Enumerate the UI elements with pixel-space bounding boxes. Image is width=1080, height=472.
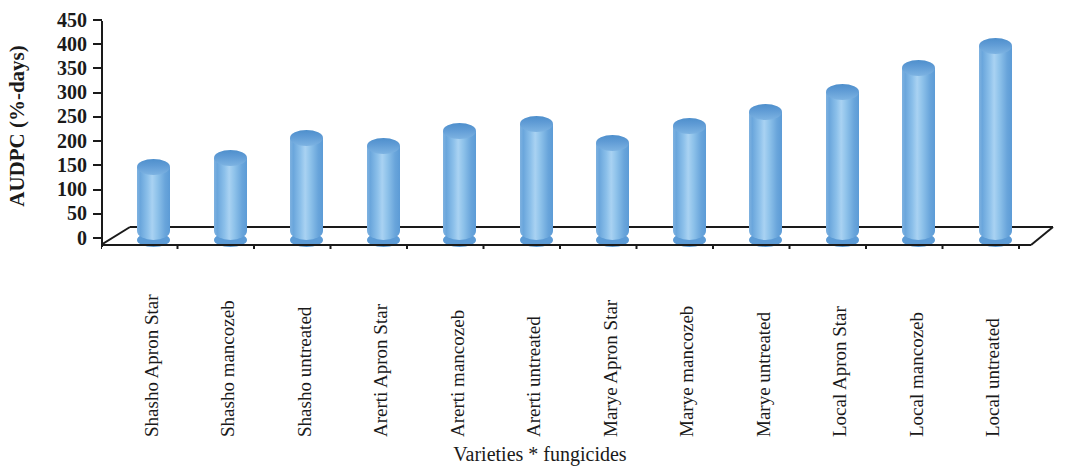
x-axis-category-label: Marye mancozeb [679,252,699,437]
x-axis-category-label: Arerti Apron Star [373,252,393,437]
x-axis-category-text: Shasho mancozeb [218,300,237,437]
x-axis-category-label: Shasho Apron Star [144,252,164,437]
bar-body [673,126,706,240]
bar [137,159,170,240]
bar-body [979,46,1012,240]
x-axis-category-label: Local mancozeb [909,252,929,437]
bar-top-ellipse [902,60,935,76]
bar [520,116,553,240]
x-axis-category-text: Local untreated [983,318,1002,437]
bar [290,130,323,240]
bar-body [214,158,247,240]
x-axis-category-text: Local mancozeb [907,312,926,437]
bar [749,104,782,240]
bar [673,118,706,240]
bar [596,135,629,240]
x-axis-category-label: Marye untreated [756,252,776,437]
x-axis-title: Varieties * fungicides [0,443,1080,466]
x-axis-category-label: Shasho mancozeb [220,252,240,437]
x-axis-category-label: Local untreated [985,252,1005,437]
x-axis-category-label: Arerti untreated [526,252,546,437]
x-axis-category-text: Marye mancozeb [677,306,696,437]
audpc-bar-chart: AUDPC (%-days) 4504003503002502001501005… [0,0,1080,472]
x-axis-category-text: Arerti mancozeb [448,310,467,437]
x-axis-category-label: Arerti mancozeb [450,252,470,437]
bar-top-ellipse [596,135,629,151]
x-axis-category-text: Local Apron Star [830,306,849,437]
bar-body [596,143,629,240]
bar-top-ellipse [520,116,553,132]
bar [979,38,1012,240]
bar-body [902,68,935,240]
x-axis-category-text: Shasho untreated [295,307,314,437]
bar-body [826,92,859,240]
x-axis-category-label: Shasho untreated [297,252,317,437]
bar [214,150,247,240]
bar-body [749,112,782,240]
bar-top-ellipse [214,150,247,166]
x-axis-category-text: Shasho Apron Star [142,295,161,438]
bar-body [290,138,323,240]
bar-top-ellipse [979,38,1012,54]
bar-body [520,124,553,240]
bar-top-ellipse [826,84,859,100]
x-axis-category-labels: Shasho Apron StarShasho mancozebShasho u… [0,252,1080,437]
bar [367,138,400,240]
x-axis-category-label: Local Apron Star [832,252,852,437]
x-axis-category-label: Marye Apron Star [603,252,623,437]
bar-series [0,0,1080,260]
bar-body [443,131,476,240]
bar-body [367,146,400,240]
x-axis-category-text: Arerti untreated [524,316,543,437]
bar-top-ellipse [749,104,782,120]
bar-top-ellipse [443,123,476,139]
bar-body [137,167,170,240]
bar [902,60,935,240]
bar-top-ellipse [673,118,706,134]
x-axis-category-text: Arerti Apron Star [371,304,390,437]
x-axis-category-text: Marye untreated [754,312,773,437]
bar [443,123,476,240]
x-axis-category-text: Marye Apron Star [601,300,620,437]
bar-top-ellipse [367,138,400,154]
bar [826,84,859,240]
